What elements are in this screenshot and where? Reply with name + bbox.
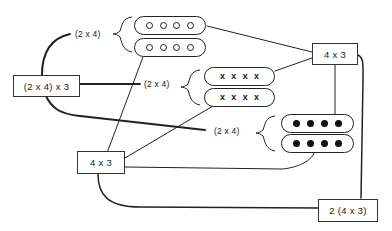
hub-node-bottom-left: 4 x 3 (77, 151, 125, 174)
open-circle-icon (146, 22, 153, 29)
cross-icon: x (220, 72, 225, 81)
hub-node-top-right: 4 x 3 (312, 43, 358, 65)
hub-bottom-label: 4 x 3 (90, 157, 112, 168)
pill-crosses-2: x x x x (204, 88, 275, 107)
result-node-label: 2 (4 x 3) (329, 205, 367, 216)
filled-dot-icon (321, 140, 329, 148)
hub-top-label: 4 x 3 (324, 49, 346, 60)
pill-open-circles-1 (134, 16, 206, 35)
open-circle-icon (160, 22, 167, 29)
filled-dot-icon (335, 140, 343, 148)
cross-icon: x (231, 93, 236, 102)
filled-dot-icon (321, 120, 329, 128)
cross-icon: x (243, 93, 248, 102)
result-node: 2 (4 x 3) (318, 199, 378, 222)
filled-dot-icon (307, 140, 315, 148)
open-circle-icon (187, 22, 194, 29)
cross-icon: x (254, 72, 259, 81)
filled-dot-icon (293, 120, 301, 128)
filled-dot-icon (293, 140, 301, 148)
open-circle-icon (146, 44, 153, 51)
group-label-cross: (2 x 4) (144, 79, 170, 89)
group-label-open: (2 x 4) (75, 29, 101, 39)
open-circle-icon (187, 44, 194, 51)
filled-dot-icon (335, 120, 343, 128)
open-circle-icon (173, 44, 180, 51)
pill-crosses-1: x x x x (204, 67, 275, 86)
cross-icon: x (220, 93, 225, 102)
open-circle-icon (160, 44, 167, 51)
cross-icon: x (243, 72, 248, 81)
cross-icon: x (231, 72, 236, 81)
group-label-filled: (2 x 4) (214, 126, 240, 136)
pill-filled-dots-2 (281, 134, 354, 153)
root-node: (2 x 4) x 3 (13, 75, 80, 97)
pill-open-circles-2 (134, 38, 206, 57)
open-circle-icon (173, 22, 180, 29)
pill-filled-dots-1 (281, 114, 354, 133)
root-node-label: (2 x 4) x 3 (24, 81, 70, 92)
filled-dot-icon (307, 120, 315, 128)
cross-icon: x (254, 93, 259, 102)
